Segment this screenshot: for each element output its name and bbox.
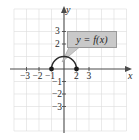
x-tick-label-neg3: −3 (20, 72, 30, 82)
graph-figure: −3 −2 −1 2 3 3 2 −1 −2 −3 y x y = f(x) (0, 0, 139, 140)
x-tick-label-3: 3 (87, 72, 92, 82)
x-tick-label-neg2: −2 (33, 72, 43, 82)
y-tick-label-neg3: −3 (52, 103, 62, 113)
y-axis-label: y (66, 5, 70, 15)
y-tick-label-neg2: −2 (52, 90, 62, 100)
x-tick-label-2: 2 (74, 72, 79, 82)
coordinate-plane (0, 0, 139, 140)
grid-lines (14, 9, 127, 131)
y-tick-label-2: 2 (55, 40, 60, 50)
y-tick-label-3: 3 (55, 27, 60, 37)
function-label-text: y = f(x) (76, 34, 108, 45)
y-tick-label-neg1: −1 (52, 78, 62, 88)
x-axis-label: x (128, 71, 132, 81)
function-label-callout: y = f(x) (67, 31, 117, 48)
